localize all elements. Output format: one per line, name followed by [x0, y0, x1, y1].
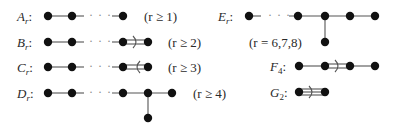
- arrow-right-icon: [335, 60, 338, 72]
- label-g-2: G2:: [270, 85, 288, 102]
- label-b-r: Br:: [17, 35, 32, 52]
- ellipsis: · · ·: [89, 8, 112, 22]
- diagram-c-r: Cr: · · · (r ≥ 3): [17, 59, 201, 77]
- condition-e-r: (r = 6,7,8): [249, 35, 302, 50]
- ellipsis: · · ·: [89, 85, 112, 99]
- diagram-g-2: G2:: [270, 85, 329, 102]
- ellipsis: · · ·: [268, 8, 291, 22]
- diagram-b-r: Br: · · · (r ≥ 2): [17, 34, 201, 52]
- label-e-r: Er:: [217, 9, 233, 26]
- ellipsis: · · ·: [89, 34, 112, 48]
- condition-d-r: (r ≥ 4): [193, 86, 226, 101]
- arrow-right-icon: [133, 36, 136, 48]
- node: [68, 12, 76, 20]
- label-c-r: Cr:: [17, 60, 33, 77]
- dynkin-diagrams-figure: Ar: · · · (r ≥ 1) Br: · · · (r ≥ 2) Cr: …: [0, 0, 400, 132]
- diagram-a-r: Ar: · · · (r ≥ 1): [16, 8, 177, 26]
- ellipsis: · · ·: [89, 59, 112, 73]
- node: [44, 12, 52, 20]
- label-f-4: F4:: [269, 59, 286, 76]
- label-d-r: Dr:: [16, 86, 34, 103]
- diagram-d-r: Dr: · · · (r ≥ 4): [16, 85, 226, 122]
- arrow-left-icon: [137, 61, 140, 73]
- condition-b-r: (r ≥ 2): [168, 35, 201, 50]
- condition-a-r: (r ≥ 1): [144, 9, 177, 24]
- condition-c-r: (r ≥ 3): [168, 60, 201, 75]
- node: [119, 12, 127, 20]
- diagram-e-r: Er: · · · (r = 6,7,8): [217, 8, 379, 50]
- label-a-r: Ar:: [16, 9, 32, 26]
- diagram-f-4: F4:: [269, 59, 379, 76]
